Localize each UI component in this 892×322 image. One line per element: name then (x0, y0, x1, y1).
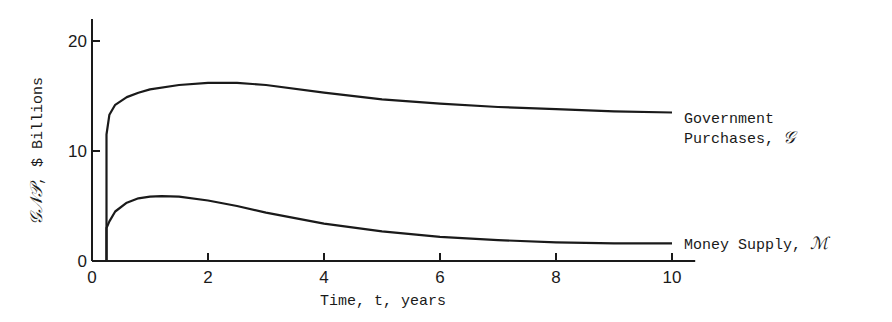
svg-text:𝒢𝒩𝒫, $ Billions: 𝒢𝒩𝒫, $ Billions (27, 77, 47, 225)
government-purchases-line (107, 83, 673, 261)
money-supply-label: Money Supply, ℳ (684, 234, 831, 254)
y-tick-label: 0 (78, 252, 87, 271)
government-purchases-label-2: Purchases, 𝒢 (684, 128, 798, 148)
x-tick-label: 2 (203, 268, 212, 287)
axes (92, 19, 695, 261)
y-axis-label: 𝒢𝒩𝒫, $ Billions (27, 77, 47, 225)
y-tick-label: 10 (68, 142, 87, 161)
series-lines (107, 83, 673, 261)
x-tick-label: 10 (663, 268, 682, 287)
x-tick-label: 4 (319, 268, 328, 287)
tick-labels: 024681001020 (68, 32, 681, 287)
line-chart: 024681001020 GovernmentPurchases, 𝒢Money… (0, 0, 892, 322)
x-tick-label: 8 (551, 268, 560, 287)
y-tick-label: 20 (68, 32, 87, 51)
money-supply-line (107, 196, 673, 261)
x-tick-label: 0 (87, 268, 96, 287)
x-tick-label: 6 (435, 268, 444, 287)
government-purchases-label: Government (684, 111, 774, 128)
series-labels: GovernmentPurchases, 𝒢Money Supply, ℳ (684, 111, 831, 254)
x-axis-label: Time, t, years (320, 293, 446, 310)
